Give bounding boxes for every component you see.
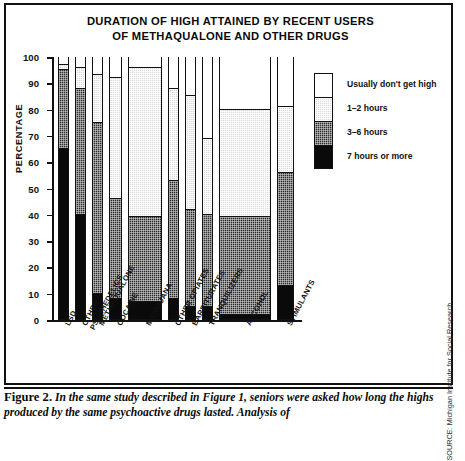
source-note: SOURCE: Michigan Institute for Social Re… — [445, 303, 454, 461]
y-axis-tick-label: 0 — [34, 315, 39, 326]
figure-number: Figure 2. — [4, 390, 52, 404]
legend-swatch-light — [314, 97, 333, 121]
y-axis-tick: 90 — [47, 83, 53, 85]
bar-segment — [110, 77, 121, 198]
bar-segment — [59, 69, 68, 148]
bar-other-opiates[interactable] — [168, 57, 179, 320]
y-axis-tick-label: 100 — [23, 52, 39, 63]
y-axis-tick-label: 30 — [28, 236, 39, 247]
bar-segment — [203, 138, 212, 214]
bar-segment — [169, 88, 178, 180]
bar-segment — [59, 64, 68, 69]
legend-item[interactable]: 1–2 hours — [314, 97, 446, 121]
bar-stimulants[interactable] — [277, 57, 294, 320]
y-axis-title: PERCENTAGE — [14, 104, 24, 173]
legend-label: 3–6 hours — [347, 127, 388, 137]
bar-segment — [76, 88, 85, 214]
y-axis-tick: 100 — [47, 57, 53, 59]
y-axis-tick: 0 — [47, 320, 53, 322]
bar-segment — [59, 148, 68, 319]
legend-swatch-black — [314, 145, 333, 169]
y-axis-tick-label: 60 — [28, 157, 39, 168]
chart-legend: Usually don't get high1–2 hours3–6 hours… — [314, 73, 446, 169]
bar-segment — [220, 109, 270, 217]
bar-segment — [169, 56, 178, 88]
y-axis-tick-label: 70 — [28, 130, 39, 141]
chart-title-line-2: OF METHAQUALONE AND OTHER DRUGS — [6, 29, 455, 44]
bar-segment — [169, 180, 178, 298]
legend-item[interactable]: 7 hours or more — [314, 145, 446, 169]
bar-segment — [220, 314, 270, 319]
y-axis-tick-label: 90 — [28, 78, 39, 89]
bar-segment — [203, 56, 212, 138]
y-axis-tick-label: 40 — [28, 209, 39, 220]
y-axis-tick: 80 — [47, 110, 53, 112]
y-axis-tick-label: 50 — [28, 183, 39, 194]
chart-title: DURATION OF HIGH ATTAINED BY RECENT USER… — [6, 14, 455, 44]
caption-body: In the same study described in Figure 1,… — [4, 391, 433, 419]
y-axis-tick-label: 10 — [28, 288, 39, 299]
legend-label: Usually don't get high — [347, 79, 436, 89]
y-axis-tick: 20 — [47, 267, 53, 269]
bar-marijuana[interactable] — [128, 57, 162, 320]
bar-segment — [76, 214, 85, 319]
bar-segment — [129, 56, 161, 67]
plot-area: 0102030405060708090100 LSDOTHERPSYCHEDEL… — [53, 57, 302, 320]
legend-label: 1–2 hours — [347, 103, 388, 113]
bar-other-psychedelics[interactable] — [75, 57, 86, 320]
y-axis-tick-label: 80 — [28, 104, 39, 115]
bar-segment — [76, 56, 85, 67]
legend-label: 7 hours or more — [347, 151, 412, 161]
bar-segment — [110, 56, 121, 77]
bar-lsd[interactable] — [58, 57, 69, 320]
chart-title-line-1: DURATION OF HIGH ATTAINED BY RECENT USER… — [6, 14, 455, 29]
y-axis-tick-label: 20 — [28, 262, 39, 273]
legend-item[interactable]: 3–6 hours — [314, 121, 446, 145]
figure-caption: Figure 2. In the same study described in… — [4, 390, 453, 420]
bar-segment — [186, 56, 195, 95]
bar-segment — [93, 56, 102, 74]
bar-segment — [76, 67, 85, 88]
bar-segment — [186, 95, 195, 208]
y-axis-tick: 50 — [47, 189, 53, 191]
legend-swatch-dark — [314, 121, 333, 145]
figure-panel: DURATION OF HIGH ATTAINED BY RECENT USER… — [4, 3, 453, 385]
bar-segment — [129, 67, 161, 217]
bar-segment — [93, 74, 102, 121]
y-axis-tick: 40 — [47, 215, 53, 217]
bar-segment — [129, 216, 161, 300]
legend-item[interactable]: Usually don't get high — [314, 73, 446, 97]
bar-alcohol[interactable] — [219, 57, 271, 320]
y-axis-tick: 60 — [47, 162, 53, 164]
y-axis-tick: 30 — [47, 241, 53, 243]
y-axis-tick: 70 — [47, 136, 53, 138]
caption-divider — [4, 387, 453, 389]
bar-segment — [59, 56, 68, 64]
bar-segment — [278, 172, 293, 285]
y-axis-tick: 10 — [47, 294, 53, 296]
legend-swatch-white — [314, 73, 333, 97]
bar-segment — [278, 56, 293, 106]
bar-segment — [93, 122, 102, 293]
bar-segment — [220, 56, 270, 109]
bar-segment — [278, 106, 293, 172]
